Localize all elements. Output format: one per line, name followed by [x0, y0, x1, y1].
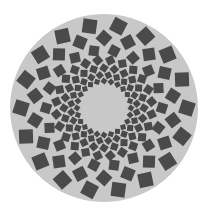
square-tile: [120, 139, 127, 146]
square-tile: [153, 83, 163, 93]
square-tile: [54, 28, 71, 45]
square-tile: [127, 125, 133, 131]
square-tile: [121, 79, 127, 85]
square-tile: [128, 76, 136, 84]
square-tile: [137, 172, 154, 189]
square-tile: [44, 123, 54, 133]
square-tile: [66, 124, 73, 131]
square-tile: [55, 85, 64, 94]
square-tile: [53, 48, 65, 60]
square-tile: [113, 74, 120, 81]
square-tile: [81, 148, 90, 157]
square-tile: [62, 74, 71, 83]
square-tile: [120, 86, 126, 92]
rotating-squares-illusion: [0, 0, 202, 211]
square-tile: [125, 92, 130, 97]
square-tile: [135, 84, 142, 91]
square-tile: [88, 82, 93, 87]
square-tile: [143, 155, 155, 167]
square-tile: [108, 159, 119, 170]
square-tile: [80, 70, 87, 77]
square-tile: [128, 132, 136, 140]
square-tile: [88, 135, 95, 142]
square-tile: [115, 129, 120, 134]
square-tile: [142, 48, 156, 62]
square-tile: [138, 133, 147, 142]
square-tile: [127, 152, 139, 164]
square-tile: [88, 45, 99, 56]
square-tile: [19, 129, 33, 143]
square-tile: [70, 92, 77, 99]
square-tile: [69, 52, 81, 64]
square-tile: [131, 117, 138, 124]
square-tile: [75, 85, 81, 91]
square-tile: [82, 18, 98, 34]
square-tile: [72, 76, 80, 84]
square-tile: [82, 124, 88, 130]
square-tile: [72, 132, 80, 140]
square-tile: [78, 119, 83, 124]
square-tile: [118, 59, 127, 68]
square-tile: [70, 142, 79, 151]
square-tile: [82, 86, 88, 92]
square-tile: [158, 66, 172, 80]
square-tile: [36, 136, 50, 150]
square-tile: [120, 124, 126, 130]
square-tile: [111, 182, 127, 198]
square-tile: [144, 122, 153, 131]
square-tile: [175, 72, 189, 86]
square-tile: [129, 66, 138, 75]
square-tile: [52, 155, 66, 169]
square-tile: [81, 131, 87, 137]
